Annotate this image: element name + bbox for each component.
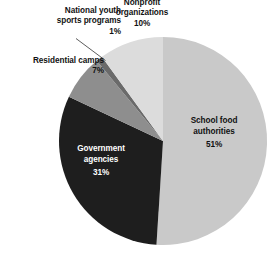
label-line-1: School food <box>191 116 238 125</box>
label-line-1: Government <box>77 144 125 153</box>
label-line-1: Residential camps <box>33 56 104 65</box>
label-percent: 51% <box>172 140 256 151</box>
slice-label-nonprofit-organizations: Nonprofit organizations 10% <box>96 0 188 29</box>
slice-label-residential-camps: Residential camps 7% <box>0 56 104 77</box>
label-percent: 7% <box>0 66 104 76</box>
label-percent: 10% <box>96 19 188 29</box>
label-line-2: agencies <box>84 155 119 164</box>
pie-chart-figure: National youth sports programs 1% Nonpro… <box>0 0 272 256</box>
label-line-2: organizations <box>116 8 169 17</box>
label-percent: 31% <box>55 168 147 179</box>
label-line-2: authorities <box>193 127 234 136</box>
slice-label-school-food-authorities: School food authorities 51% <box>172 116 256 151</box>
label-line-1: Nonprofit <box>124 0 160 7</box>
slice-label-government-agencies: Government agencies 31% <box>55 144 147 179</box>
